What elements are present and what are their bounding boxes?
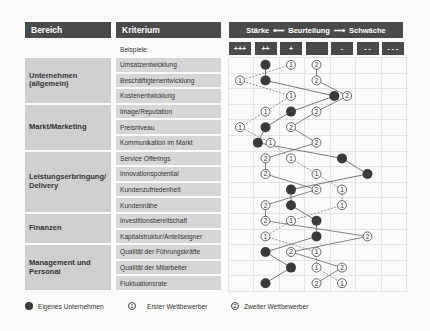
- second-competitor-marker: 2: [261, 154, 270, 163]
- svg-text:1: 1: [315, 170, 319, 177]
- svg-text:1: 1: [238, 77, 242, 84]
- own-company-marker: [337, 153, 347, 163]
- svg-text:1: 1: [340, 186, 344, 193]
- second-competitor-marker: 2: [312, 185, 321, 194]
- svg-text:1: 1: [289, 155, 293, 162]
- legend-first: 1 Erster Wettbewerber: [128, 300, 207, 312]
- svg-text:2: 2: [264, 155, 268, 162]
- svg-text:1: 1: [340, 202, 344, 209]
- own-company-marker: [329, 91, 339, 101]
- svg-text:2: 2: [264, 170, 268, 177]
- first-competitor-marker: 1: [338, 201, 347, 210]
- svg-text:2: 2: [340, 264, 344, 271]
- second-competitor-marker: 2: [312, 76, 321, 85]
- own-company-marker: [261, 60, 271, 70]
- svg-text:1: 1: [264, 108, 268, 115]
- own-company-marker: [261, 247, 271, 257]
- first-competitor-marker: 1: [236, 76, 245, 85]
- legend-first-label: Erster Wettbewerber: [147, 303, 207, 310]
- first-competitor-marker: 1: [312, 170, 321, 179]
- svg-text:1: 1: [289, 92, 293, 99]
- circled-two-icon: 2: [231, 302, 239, 310]
- svg-text:1: 1: [315, 248, 319, 255]
- own-company-marker: [286, 263, 296, 273]
- first-competitor-marker: 1: [338, 279, 347, 288]
- second-competitor-marker: 2: [261, 216, 270, 225]
- own-company-marker: [312, 216, 322, 226]
- svg-text:2: 2: [315, 108, 319, 115]
- second-competitor-marker: 2: [261, 170, 270, 179]
- legend-second-label: Zweiter Wettbewerber: [244, 303, 308, 310]
- svg-text:1: 1: [269, 139, 273, 146]
- svg-text:1: 1: [264, 233, 268, 240]
- first-competitor-marker: 1: [266, 138, 275, 147]
- legend-own-label: Eigenes Unternehmen: [38, 303, 104, 310]
- first-competitor-marker: 1: [338, 185, 347, 194]
- first-competitor-marker: 1: [287, 216, 296, 225]
- svg-text:1: 1: [289, 61, 293, 68]
- own-company-marker: [261, 75, 271, 85]
- own-company-marker: [253, 138, 263, 148]
- svg-text:1: 1: [315, 264, 319, 271]
- filled-circle-icon: [25, 302, 33, 310]
- svg-text:2: 2: [315, 186, 319, 193]
- second-competitor-marker: 2: [312, 107, 321, 116]
- svg-text:2: 2: [289, 248, 293, 255]
- second-competitor-marker: 2: [312, 279, 321, 288]
- second-competitor-marker: 2: [363, 232, 372, 241]
- second-competitor-marker: 2: [287, 248, 296, 257]
- svg-text:2: 2: [315, 280, 319, 287]
- legend-own: Eigenes Unternehmen: [25, 300, 104, 312]
- second-competitor-marker: 2: [343, 92, 352, 101]
- first-competitor-marker: 1: [287, 60, 296, 69]
- own-company-marker: [286, 107, 296, 117]
- first-competitor-marker: 1: [261, 232, 270, 241]
- second-competitor-marker: 2: [338, 263, 347, 272]
- second-competitor-marker: 2: [312, 138, 321, 147]
- second-competitor-marker: 2: [287, 123, 296, 132]
- first-competitor-marker: 1: [287, 92, 296, 101]
- svg-text:1: 1: [238, 124, 242, 131]
- svg-text:1: 1: [340, 280, 344, 287]
- svg-text:2: 2: [289, 124, 293, 131]
- first-competitor-marker: 1: [312, 263, 321, 272]
- first-competitor-marker: 1: [236, 123, 245, 132]
- own-company-marker: [286, 200, 296, 210]
- svg-text:2: 2: [345, 92, 349, 99]
- svg-text:1: 1: [289, 217, 293, 224]
- own-company-marker: [286, 185, 296, 195]
- circled-one-icon: 1: [128, 302, 136, 310]
- own-company-marker: [261, 278, 271, 288]
- svg-text:2: 2: [315, 77, 319, 84]
- own-company-marker: [261, 122, 271, 132]
- legend-second: 2 Zweiter Wettbewerber: [231, 300, 308, 312]
- first-competitor-marker: 1: [312, 248, 321, 257]
- svg-text:2: 2: [264, 217, 268, 224]
- svg-text:2: 2: [366, 233, 370, 240]
- competitor-profile-diagram: Bereich Kriterium Stärke ⟵ Beurteilung ⟶…: [0, 0, 430, 331]
- svg-text:2: 2: [264, 202, 268, 209]
- svg-text:2: 2: [315, 139, 319, 146]
- second-competitor-marker: 2: [261, 201, 270, 210]
- own-company-marker: [363, 169, 373, 179]
- first-competitor-marker: 1: [287, 154, 296, 163]
- profile-plot: 111111111111111222222222222222: [0, 0, 430, 331]
- second-competitor-marker: 2: [312, 60, 321, 69]
- first-competitor-marker: 1: [261, 107, 270, 116]
- own-company-marker: [312, 231, 322, 241]
- svg-text:2: 2: [315, 61, 319, 68]
